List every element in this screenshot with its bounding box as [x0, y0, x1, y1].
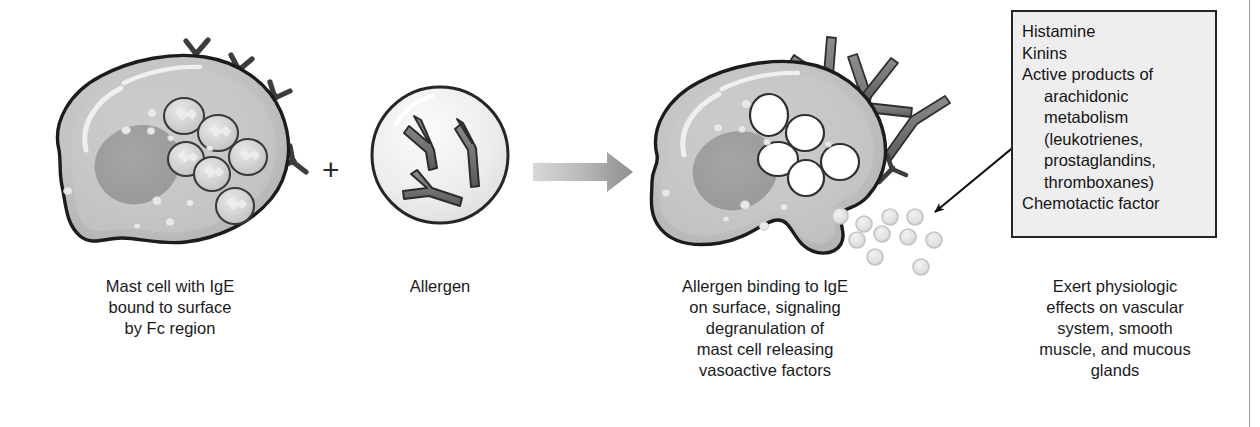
vesicle-speck	[824, 141, 831, 147]
released-granule	[856, 216, 872, 232]
vesicle-speck	[759, 222, 768, 230]
released-granule	[882, 209, 898, 225]
ige-receptor-icon	[892, 169, 906, 175]
released-granule-group	[832, 208, 942, 275]
plus-operator: +	[322, 155, 340, 185]
vacuole	[750, 94, 788, 136]
released-granule	[926, 232, 942, 248]
vesicle-speck	[741, 99, 751, 108]
mediators-panel: HistamineKininsActive products ofarachid…	[1011, 10, 1217, 238]
vesicle-speck	[147, 108, 157, 117]
caption-mediator-effects: Exert physiologic effects on vascular sy…	[975, 276, 1255, 381]
released-granule	[867, 249, 883, 265]
mediator-item: Active products of	[1022, 64, 1215, 86]
page-edge-rule	[1249, 0, 1251, 427]
vesicle-speck	[165, 218, 174, 226]
vesicle-speck	[152, 197, 162, 206]
released-granule	[832, 208, 848, 224]
vesicle-speck	[168, 135, 175, 141]
mediators-list: HistamineKininsActive products ofarachid…	[1013, 12, 1215, 215]
mediator-item: (leukotrienes,	[1022, 129, 1215, 151]
vacuole	[788, 160, 824, 196]
vesicle-speck	[780, 203, 788, 210]
vesicle-speck	[763, 139, 770, 145]
vesicle-speck	[134, 223, 141, 229]
vacuole	[821, 144, 859, 180]
caption-allergen: Allergen	[355, 276, 525, 297]
vesicle-speck	[662, 189, 671, 197]
mediator-item: Histamine	[1022, 21, 1215, 43]
mast-cell-degranulating-illustration	[651, 37, 950, 275]
released-granule	[849, 232, 865, 248]
vesicle-speck	[186, 199, 194, 206]
vesicle-speck	[738, 125, 746, 132]
mediator-item: Chemotactic factor	[1022, 193, 1215, 215]
mast-cell-resting-illustration	[57, 40, 306, 243]
mediator-item: Kinins	[1022, 43, 1215, 65]
caption-mast-cell-degranulating: Allergen binding to IgE on surface, sign…	[620, 276, 910, 381]
vesicle-speck	[740, 201, 750, 210]
vesicle-speck	[713, 124, 722, 132]
vesicle-speck	[121, 126, 130, 134]
vesicle-speck	[64, 187, 73, 195]
mediator-item: prostaglandins,	[1022, 150, 1215, 172]
process-arrow	[533, 152, 633, 192]
released-granule	[913, 259, 929, 275]
mediator-item: thromboxanes)	[1022, 172, 1215, 194]
vesicle-speck	[207, 145, 214, 151]
vesicle-speck	[723, 216, 730, 222]
released-granule	[874, 226, 890, 242]
allergen-illustration	[372, 87, 508, 223]
released-granule	[900, 229, 916, 245]
vesicle-speck	[147, 127, 155, 134]
mediator-item: metabolism	[1022, 107, 1215, 129]
released-granule	[907, 209, 923, 225]
caption-mast-cell-resting: Mast cell with IgE bound to surface by F…	[20, 276, 320, 339]
mediator-item: arachidonic	[1022, 86, 1215, 108]
allergen-membrane	[372, 87, 508, 223]
